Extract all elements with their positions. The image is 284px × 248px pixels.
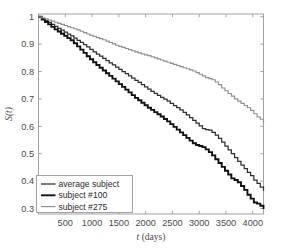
y-tick-label: 1 — [29, 12, 34, 22]
y-tick-label: 0.8 — [21, 67, 34, 77]
x-tick-label: 2000 — [135, 218, 155, 228]
y-tick-label: 0.5 — [21, 149, 34, 159]
legend-label-2: subject #275 — [59, 202, 108, 212]
x-tick-label: 4000 — [243, 218, 263, 228]
x-tick-label: 2500 — [162, 218, 182, 228]
chart-canvas: 50010001500200025003000350040000.30.40.5… — [0, 0, 284, 248]
x-axis-title: t (days) — [137, 232, 166, 243]
y-tick-label: 0.9 — [21, 39, 34, 49]
chart-legend: average subjectsubject #100subject #275 — [37, 176, 133, 213]
y-axis-title-var: S(t) — [4, 107, 15, 121]
x-tick-label: 1000 — [82, 218, 102, 228]
y-tick-label: 0.3 — [21, 204, 34, 214]
x-axis-title-unit: (days) — [139, 232, 165, 243]
y-tick-label: 0.4 — [21, 176, 34, 186]
x-tick-label: 3000 — [189, 218, 209, 228]
legend-label-0: average subject — [59, 179, 120, 189]
x-tick-label: 1500 — [109, 218, 129, 228]
series-line-0 — [39, 17, 264, 191]
x-tick-label: 3500 — [216, 218, 236, 228]
x-tick-label: 500 — [58, 218, 73, 228]
y-tick-label: 0.6 — [21, 122, 34, 132]
y-axis-title: S(t) — [4, 107, 15, 121]
survival-curve-figure: 50010001500200025003000350040000.30.40.5… — [0, 0, 284, 248]
y-tick-label: 0.7 — [21, 94, 34, 104]
legend-label-1: subject #100 — [59, 190, 108, 200]
